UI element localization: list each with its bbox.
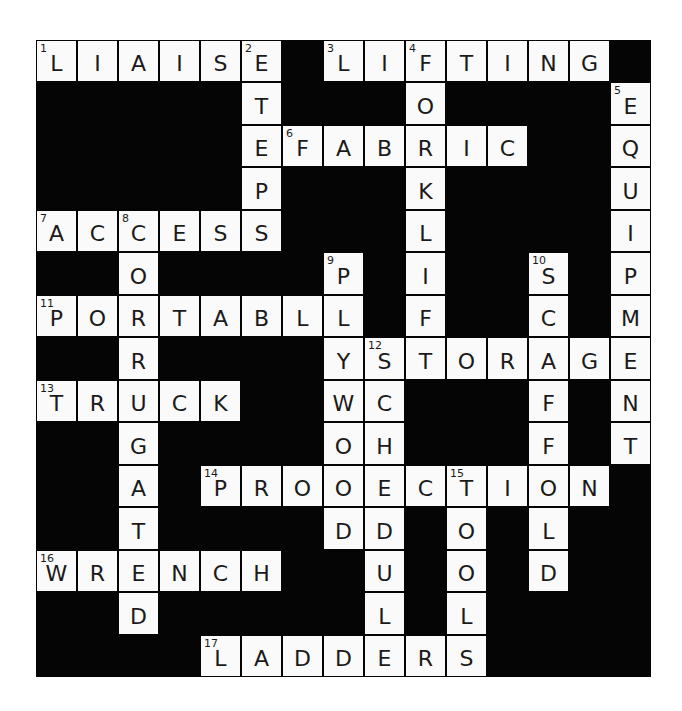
- crossword-cell[interactable]: M: [611, 296, 650, 336]
- crossword-cell[interactable]: 1L: [37, 41, 76, 81]
- crossword-cell[interactable]: D: [365, 508, 404, 548]
- crossword-cell[interactable]: E: [365, 466, 404, 506]
- crossword-cell[interactable]: D: [324, 508, 363, 548]
- crossword-cell[interactable]: U: [611, 168, 650, 208]
- crossword-cell[interactable]: A: [529, 338, 568, 378]
- crossword-cell[interactable]: F: [529, 423, 568, 463]
- crossword-cell[interactable]: 6F: [283, 126, 322, 166]
- crossword-cell[interactable]: I: [447, 126, 486, 166]
- crossword-cell[interactable]: N: [611, 381, 650, 421]
- crossword-cell[interactable]: 11P: [37, 296, 76, 336]
- crossword-cell[interactable]: D: [324, 636, 363, 676]
- crossword-cell[interactable]: W: [324, 381, 363, 421]
- crossword-cell[interactable]: 7A: [37, 211, 76, 251]
- crossword-cell[interactable]: T: [242, 83, 281, 123]
- crossword-cell[interactable]: Y: [324, 338, 363, 378]
- crossword-cell[interactable]: T: [406, 338, 445, 378]
- crossword-cell[interactable]: 13T: [37, 381, 76, 421]
- crossword-cell[interactable]: E: [160, 211, 199, 251]
- crossword-cell[interactable]: E: [119, 551, 158, 591]
- crossword-cell[interactable]: 10S: [529, 253, 568, 293]
- crossword-cell[interactable]: N: [570, 466, 609, 506]
- crossword-cell[interactable]: I: [365, 41, 404, 81]
- crossword-cell[interactable]: I: [488, 466, 527, 506]
- crossword-cell[interactable]: 2E: [242, 41, 281, 81]
- crossword-cell[interactable]: T: [611, 423, 650, 463]
- crossword-cell[interactable]: C: [365, 381, 404, 421]
- crossword-cell[interactable]: D: [283, 636, 322, 676]
- crossword-cell[interactable]: A: [201, 296, 240, 336]
- crossword-cell[interactable]: N: [529, 41, 568, 81]
- crossword-cell[interactable]: Q: [611, 126, 650, 166]
- crossword-cell[interactable]: 16W: [37, 551, 76, 591]
- crossword-cell[interactable]: T: [160, 296, 199, 336]
- crossword-cell[interactable]: R: [78, 551, 117, 591]
- crossword-cell[interactable]: C: [201, 551, 240, 591]
- crossword-cell[interactable]: F: [406, 296, 445, 336]
- crossword-cell[interactable]: O: [283, 466, 322, 506]
- crossword-cell[interactable]: 9P: [324, 253, 363, 293]
- crossword-cell[interactable]: L: [529, 508, 568, 548]
- crossword-cell[interactable]: A: [119, 466, 158, 506]
- crossword-cell[interactable]: S: [447, 636, 486, 676]
- crossword-cell[interactable]: R: [488, 338, 527, 378]
- crossword-cell[interactable]: A: [242, 636, 281, 676]
- crossword-cell[interactable]: R: [406, 126, 445, 166]
- crossword-cell[interactable]: 14P: [201, 466, 240, 506]
- crossword-cell[interactable]: I: [611, 211, 650, 251]
- crossword-cell[interactable]: O: [447, 338, 486, 378]
- crossword-cell[interactable]: I: [78, 41, 117, 81]
- crossword-cell[interactable]: D: [529, 551, 568, 591]
- crossword-cell[interactable]: A: [119, 41, 158, 81]
- crossword-cell[interactable]: O: [324, 423, 363, 463]
- crossword-cell[interactable]: L: [283, 296, 322, 336]
- crossword-cell[interactable]: G: [570, 41, 609, 81]
- crossword-cell[interactable]: B: [242, 296, 281, 336]
- crossword-cell[interactable]: S: [201, 211, 240, 251]
- crossword-cell[interactable]: P: [242, 168, 281, 208]
- crossword-cell[interactable]: L: [365, 593, 404, 633]
- crossword-cell[interactable]: T: [119, 508, 158, 548]
- crossword-cell[interactable]: L: [324, 296, 363, 336]
- crossword-cell[interactable]: I: [406, 253, 445, 293]
- crossword-cell[interactable]: T: [447, 41, 486, 81]
- crossword-cell[interactable]: C: [488, 126, 527, 166]
- crossword-cell[interactable]: I: [488, 41, 527, 81]
- crossword-cell[interactable]: E: [365, 636, 404, 676]
- crossword-cell[interactable]: R: [242, 466, 281, 506]
- crossword-cell[interactable]: R: [119, 296, 158, 336]
- crossword-cell[interactable]: 4F: [406, 41, 445, 81]
- crossword-cell[interactable]: U: [119, 381, 158, 421]
- crossword-cell[interactable]: A: [324, 126, 363, 166]
- crossword-cell[interactable]: 5E: [611, 83, 650, 123]
- crossword-cell[interactable]: O: [119, 253, 158, 293]
- crossword-cell[interactable]: G: [570, 338, 609, 378]
- crossword-cell[interactable]: O: [529, 466, 568, 506]
- crossword-cell[interactable]: D: [119, 593, 158, 633]
- crossword-cell[interactable]: O: [78, 296, 117, 336]
- crossword-cell[interactable]: C: [406, 466, 445, 506]
- crossword-cell[interactable]: O: [406, 83, 445, 123]
- crossword-cell[interactable]: F: [529, 381, 568, 421]
- crossword-cell[interactable]: R: [78, 381, 117, 421]
- crossword-cell[interactable]: O: [447, 551, 486, 591]
- crossword-cell[interactable]: H: [365, 423, 404, 463]
- crossword-cell[interactable]: K: [406, 168, 445, 208]
- crossword-cell[interactable]: 15T: [447, 466, 486, 506]
- crossword-cell[interactable]: K: [201, 381, 240, 421]
- crossword-cell[interactable]: 8C: [119, 211, 158, 251]
- crossword-cell[interactable]: R: [406, 636, 445, 676]
- crossword-cell[interactable]: R: [119, 338, 158, 378]
- crossword-cell[interactable]: 12S: [365, 338, 404, 378]
- crossword-cell[interactable]: I: [160, 41, 199, 81]
- crossword-cell[interactable]: C: [529, 296, 568, 336]
- crossword-cell[interactable]: H: [242, 551, 281, 591]
- crossword-cell[interactable]: N: [160, 551, 199, 591]
- crossword-cell[interactable]: E: [242, 126, 281, 166]
- crossword-cell[interactable]: O: [324, 466, 363, 506]
- crossword-cell[interactable]: C: [78, 211, 117, 251]
- crossword-cell[interactable]: P: [611, 253, 650, 293]
- crossword-cell[interactable]: B: [365, 126, 404, 166]
- crossword-cell[interactable]: S: [242, 211, 281, 251]
- crossword-cell[interactable]: U: [365, 551, 404, 591]
